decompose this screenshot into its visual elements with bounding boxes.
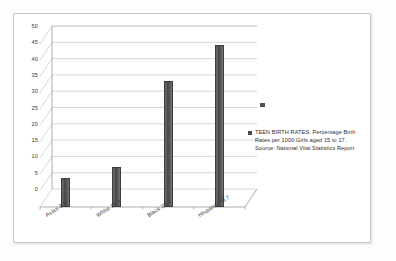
legend-swatch-icon (248, 131, 252, 135)
legend-label: TEEN BIRTH RATES: Percentage Birth Rates… (255, 128, 366, 153)
chart-frame: 05101520253035404550 Asian 8.8White 12.4… (13, 13, 371, 243)
plot-marker-icon (260, 103, 265, 107)
bar (215, 45, 224, 207)
screenshot-canvas: 05101520253035404550 Asian 8.8White 12.4… (0, 0, 396, 261)
bar (164, 81, 173, 207)
legend-item: TEEN BIRTH RATES: Percentage Birth Rates… (248, 128, 366, 153)
x-axis-tick-labels: Asian 8.8White 12.4Black 38.7Hispanic 49… (14, 204, 274, 254)
chart-legend: TEEN BIRTH RATES: Percentage Birth Rates… (248, 128, 366, 153)
